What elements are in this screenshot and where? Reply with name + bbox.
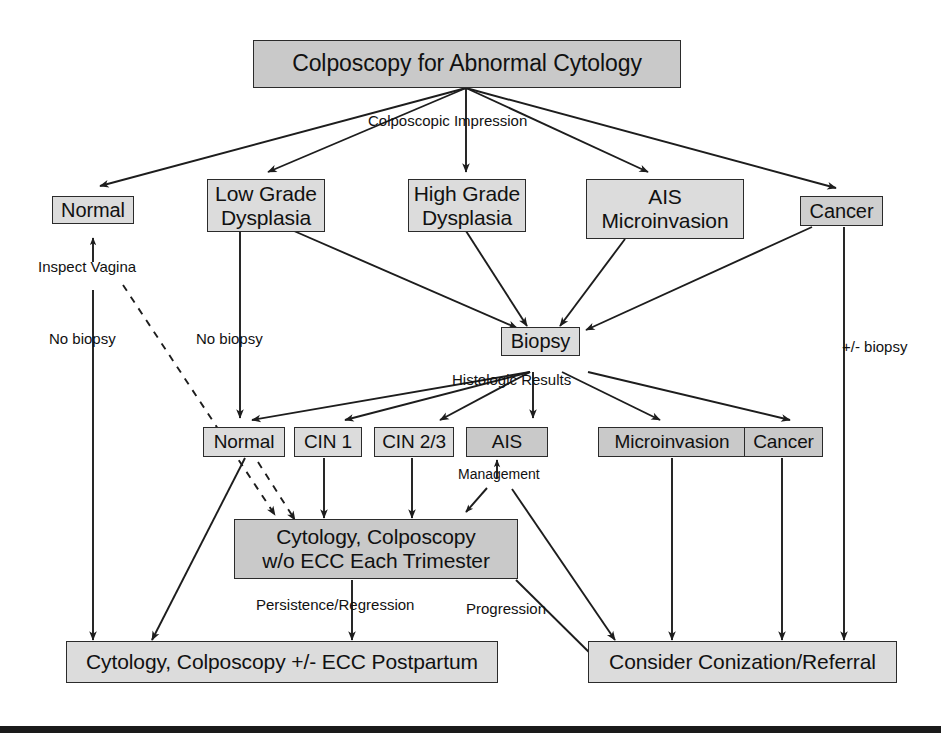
node-histology-cancer[interactable]: Cancer <box>744 427 823 457</box>
node-surveillance[interactable]: Cytology, Colposcopy w/o ECC Each Trimes… <box>234 519 518 579</box>
edge-label-persistence-regression: Persistence/Regression <box>256 596 414 613</box>
node-low-grade-dysplasia[interactable]: Low Grade Dysplasia <box>207 179 325 232</box>
edge-label-plus-minus-biopsy: +/- biopsy <box>842 338 907 355</box>
node-root[interactable]: Colposcopy for Abnormal Cytology <box>253 40 681 88</box>
node-postpartum[interactable]: Cytology, Colposcopy +/- ECC Postpartum <box>66 641 498 683</box>
bottom-divider <box>0 726 941 733</box>
diagram-canvas: Colposcopy for Abnormal Cytology Normal … <box>0 0 941 743</box>
edge-label-no-biopsy-mid: No biopsy <box>196 330 263 347</box>
node-high-grade-dysplasia[interactable]: High Grade Dysplasia <box>408 179 526 232</box>
node-ais-microinvasion[interactable]: AIS Microinvasion <box>586 179 744 239</box>
edge-label-progression: Progression <box>466 600 546 617</box>
node-conization[interactable]: Consider Conization/Referral <box>588 641 897 683</box>
node-ais[interactable]: AIS <box>466 427 548 457</box>
node-impression-normal[interactable]: Normal <box>52 196 134 224</box>
node-microinvasion[interactable]: Microinvasion <box>598 427 746 457</box>
edge-label-no-biopsy-left: No biopsy <box>49 330 116 347</box>
node-cin1[interactable]: CIN 1 <box>294 427 362 457</box>
node-histology-normal[interactable]: Normal <box>203 427 285 457</box>
edge-label-histologic-results: Histologic Results <box>452 371 571 388</box>
edge-label-colposcopic-impression: Colposcopic Impression <box>368 112 527 129</box>
node-biopsy[interactable]: Biopsy <box>501 327 580 356</box>
edge-label-inspect-vagina: Inspect Vagina <box>38 258 136 275</box>
node-impression-cancer[interactable]: Cancer <box>800 196 883 226</box>
edge-label-management: Management <box>458 466 540 482</box>
node-cin23[interactable]: CIN 2/3 <box>374 427 454 457</box>
